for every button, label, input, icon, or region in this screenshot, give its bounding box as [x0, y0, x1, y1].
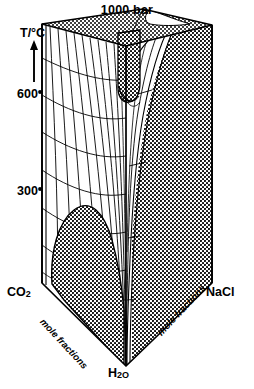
vertex-label-nacl: NaCl — [206, 286, 234, 299]
critical-trough-valley — [118, 30, 140, 106]
h2o-text: H — [108, 366, 117, 380]
tick-300-dot — [38, 187, 42, 191]
h2o-subscript: 2O — [117, 370, 129, 380]
vertex-label-co2: CO2 — [7, 286, 31, 299]
co2-subscript: 2 — [26, 289, 31, 299]
pressure-title: 1000 bar — [0, 4, 254, 17]
tick-600-dot — [38, 90, 42, 94]
vertex-label-h2o: H2O — [108, 367, 129, 380]
tick-label-600: 600 — [17, 88, 38, 101]
temperature-axis — [30, 40, 38, 82]
tick-label-300: 300 — [17, 185, 38, 198]
temperature-axis-label: T/°C — [20, 27, 45, 40]
phase-diagram-canvas — [0, 0, 254, 389]
phase-diagram-figure: 1000 bar T/°C 600 300 CO2 NaCl H2O mole … — [0, 0, 254, 389]
co2-text: CO — [7, 285, 26, 299]
